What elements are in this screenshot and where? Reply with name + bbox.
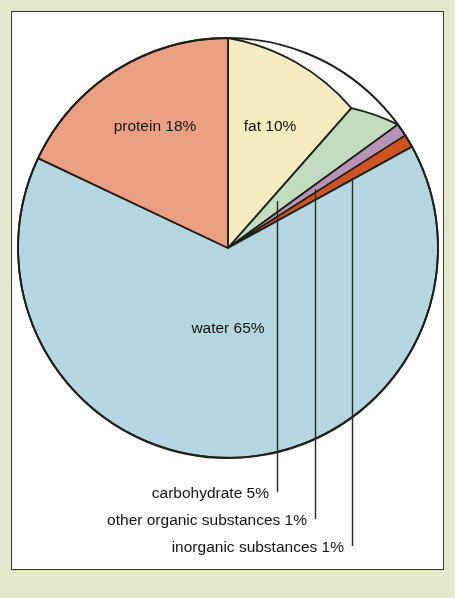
slice-label-fat: fat 10%	[244, 117, 297, 134]
callout-label-inorganic: inorganic substances 1%	[172, 538, 345, 555]
callout-label-other-organic: other organic substances 1%	[107, 511, 307, 528]
pie-chart: protein 18% fat 10% water 65% carbohydra…	[0, 0, 455, 598]
slice-label-water: water 65%	[190, 319, 264, 336]
figure-page: protein 18% fat 10% water 65% carbohydra…	[0, 0, 455, 598]
pie-slices	[18, 38, 438, 458]
slice-label-protein: protein 18%	[114, 117, 197, 134]
callout-label-carbohydrate: carbohydrate 5%	[152, 484, 269, 501]
